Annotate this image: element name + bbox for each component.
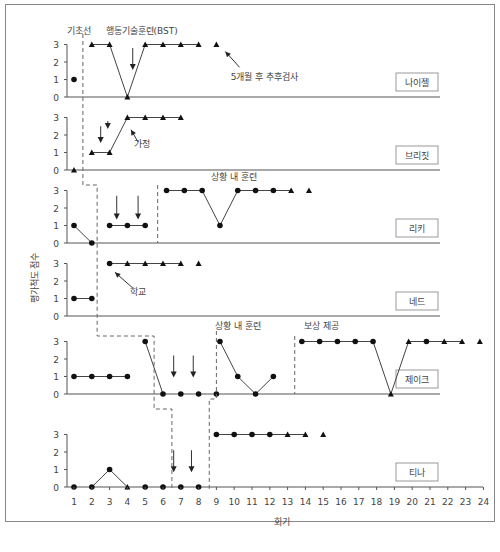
y-tick-label: 2	[53, 277, 59, 287]
x-tick-label: 9	[214, 497, 220, 507]
x-tick-label: 2	[89, 497, 95, 507]
data-point-circle	[107, 374, 113, 380]
annotation: 5개월 후 추후검사	[231, 71, 299, 82]
data-point-circle	[107, 223, 113, 229]
data-point-circle	[125, 223, 131, 229]
y-axis-title: 평가척도 점수	[29, 253, 40, 304]
participant-label: 네드	[409, 297, 425, 307]
y-tick-label: 3	[53, 113, 59, 123]
data-point-circle	[71, 296, 77, 302]
arrow-down-icon	[135, 214, 141, 220]
data-point-circle	[89, 296, 95, 302]
data-line	[74, 226, 92, 244]
y-tick-label: 3	[53, 430, 59, 440]
x-tick-label: 3	[107, 497, 113, 507]
data-point-circle	[196, 391, 202, 397]
y-tick-label: 0	[53, 239, 59, 249]
data-point-circle	[142, 223, 148, 229]
data-point-triangle	[320, 432, 326, 438]
data-point-circle	[253, 188, 259, 194]
x-tick-label: 15	[317, 497, 328, 507]
x-tick-label: 6	[160, 497, 166, 507]
data-point-triangle	[213, 42, 219, 48]
data-line	[110, 118, 128, 153]
data-point-circle	[217, 223, 223, 229]
x-tick-label: 8	[196, 497, 202, 507]
x-tick-label: 20	[406, 497, 418, 507]
y-tick-label: 3	[53, 337, 59, 347]
x-tick-label: 17	[353, 497, 364, 507]
data-point-triangle	[477, 339, 483, 345]
arrow-down-icon	[98, 137, 104, 143]
data-line	[220, 342, 238, 377]
data-point-circle	[199, 188, 205, 194]
y-tick-label: 1	[53, 75, 59, 85]
data-point-circle	[317, 339, 323, 345]
x-tick-label: 22	[442, 497, 453, 507]
annotation: 상황 내 훈련	[215, 320, 261, 331]
y-tick-label: 0	[53, 312, 59, 322]
data-point-circle	[89, 240, 95, 246]
arrow-down-icon	[171, 372, 177, 378]
x-tick-label: 21	[424, 497, 435, 507]
data-point-circle	[271, 374, 277, 380]
y-tick-label: 1	[53, 465, 59, 475]
y-tick-label: 2	[53, 204, 59, 214]
phase-change-line	[209, 331, 216, 490]
x-tick-label: 5	[142, 497, 148, 507]
y-tick-label: 0	[53, 166, 59, 176]
multiple-baseline-chart: 0123나이젤기초선행동기술훈련(BST)5개월 후 추후검사0123브리짓가정…	[0, 0, 500, 552]
x-tick-label: 23	[460, 497, 471, 507]
x-tick-label: 4	[125, 497, 131, 507]
data-point-circle	[107, 467, 113, 473]
x-tick-label: 10	[228, 497, 240, 507]
x-tick-label: 19	[389, 497, 401, 507]
data-point-circle	[249, 432, 255, 438]
data-point-circle	[231, 432, 237, 438]
y-tick-label: 2	[53, 131, 59, 141]
x-tick-label: 11	[246, 497, 257, 507]
data-point-circle	[89, 374, 95, 380]
y-tick-label: 1	[53, 148, 59, 158]
data-point-circle	[370, 339, 376, 345]
data-point-circle	[71, 374, 77, 380]
annotation: 행동기술훈련(BST)	[106, 25, 178, 36]
data-line	[110, 470, 128, 488]
y-tick-label: 1	[53, 294, 59, 304]
y-tick-label: 3	[53, 40, 59, 50]
arrow-down-icon	[105, 123, 111, 129]
annotation: 가정	[134, 139, 150, 149]
y-tick-label: 0	[53, 390, 59, 400]
data-point-circle	[235, 374, 241, 380]
data-point-circle	[182, 188, 188, 194]
y-tick-label: 1	[53, 221, 59, 231]
y-tick-label: 2	[53, 58, 59, 68]
data-point-circle	[424, 339, 430, 345]
x-tick-label: 7	[178, 497, 184, 507]
data-line	[373, 342, 391, 395]
annotation: 기초선	[67, 26, 91, 36]
data-point-circle	[271, 188, 277, 194]
data-point-circle	[253, 391, 259, 397]
data-point-circle	[352, 339, 358, 345]
y-tick-label: 0	[53, 93, 59, 103]
data-point-circle	[71, 77, 77, 83]
arrow-down-icon	[190, 372, 196, 378]
y-tick-label: 0	[53, 483, 59, 493]
data-point-triangle	[306, 188, 312, 194]
data-point-circle	[335, 339, 341, 345]
data-line	[110, 45, 128, 98]
participant-label: 나이젤	[405, 77, 429, 88]
data-point-circle	[71, 223, 77, 229]
data-line	[202, 191, 220, 226]
x-tick-label: 13	[282, 497, 293, 507]
data-line	[127, 45, 145, 98]
participant-label: 브리짓	[405, 151, 429, 161]
x-axis-title: 회기	[274, 517, 290, 527]
data-point-circle	[299, 339, 305, 345]
data-point-circle	[125, 374, 131, 380]
data-point-circle	[235, 188, 241, 194]
data-line	[256, 377, 274, 395]
data-point-circle	[267, 432, 273, 438]
y-tick-label: 1	[53, 372, 59, 382]
